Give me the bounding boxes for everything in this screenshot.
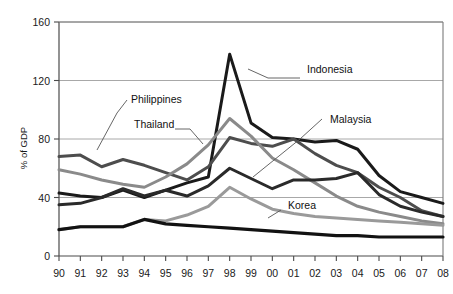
x-tick-label-91: 91 — [74, 267, 86, 279]
y-tick-label-160: 160 — [32, 16, 50, 28]
x-tick-label-97: 97 — [202, 267, 214, 279]
x-tick-label-02: 02 — [309, 267, 321, 279]
x-tick-label-93: 93 — [117, 267, 129, 279]
x-tick-label-03: 03 — [330, 267, 342, 279]
x-tick-label-95: 95 — [160, 267, 172, 279]
x-tick-label-94: 94 — [138, 267, 150, 279]
x-tick-label-04: 04 — [352, 267, 364, 279]
x-tick-label-98: 98 — [224, 267, 236, 279]
series-label-philippines: Philippines — [131, 93, 182, 105]
x-tick-label-06: 06 — [394, 267, 406, 279]
y-tick-label-40: 40 — [38, 192, 50, 204]
x-tick-label-92: 92 — [96, 267, 108, 279]
x-tick-label-99: 99 — [245, 267, 257, 279]
x-tick-label-08: 08 — [437, 267, 449, 279]
x-tick-label-00: 00 — [266, 267, 278, 279]
chart-container: 04080120160 9091929394959697989900010203… — [0, 0, 453, 294]
x-tick-label-05: 05 — [373, 267, 385, 279]
series-label-malaysia: Malaysia — [330, 113, 372, 125]
series-label-korea: Korea — [288, 199, 316, 211]
y-tick-label-0: 0 — [44, 250, 50, 262]
series-label-thailand: Thailand — [134, 118, 174, 130]
x-tick-label-07: 07 — [416, 267, 428, 279]
x-tick-label-01: 01 — [288, 267, 300, 279]
y-tick-label-80: 80 — [38, 133, 50, 145]
series-label-indonesia: Indonesia — [307, 63, 353, 75]
y-tick-label-120: 120 — [32, 75, 50, 87]
chart-background — [0, 0, 453, 294]
line-chart: 04080120160 9091929394959697989900010203… — [0, 0, 453, 294]
x-tick-label-90: 90 — [53, 267, 65, 279]
x-tick-label-96: 96 — [181, 267, 193, 279]
y-axis-title: % of GDP — [18, 127, 29, 169]
